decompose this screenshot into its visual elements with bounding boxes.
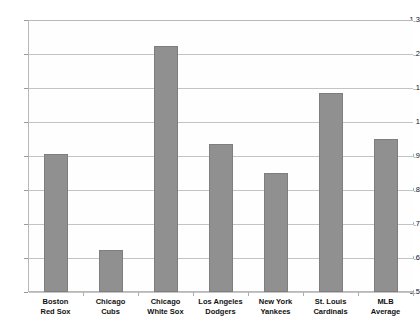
bar (44, 154, 68, 292)
bar-chart: 1.31.21.110.90.80.70.60.5 Boston Red Sox… (0, 0, 420, 323)
bar (374, 139, 398, 292)
x-category-label: Chicago White Sox (138, 297, 193, 316)
x-tick-mark (83, 292, 84, 296)
bar (264, 173, 288, 292)
x-category-label: Los Angeles Dodgers (193, 297, 248, 316)
x-category-label: Chicago Cubs (83, 297, 138, 316)
x-category-label: MLB Average (358, 297, 413, 316)
bar (319, 93, 343, 292)
bar (209, 144, 233, 292)
x-tick-mark (358, 292, 359, 296)
gridline (29, 292, 413, 293)
bar (154, 46, 178, 293)
x-category-label: New York Yankees (248, 297, 303, 316)
x-tick-mark (413, 292, 414, 296)
x-tick-mark (193, 292, 194, 296)
bar (99, 250, 123, 293)
x-category-label: Boston Red Sox (28, 297, 83, 316)
y-tick-mark (24, 292, 28, 293)
x-tick-mark (248, 292, 249, 296)
x-tick-mark (138, 292, 139, 296)
x-tick-mark (303, 292, 304, 296)
x-category-label: St. Louis Cardinals (303, 297, 358, 316)
bars-layer (28, 20, 413, 292)
